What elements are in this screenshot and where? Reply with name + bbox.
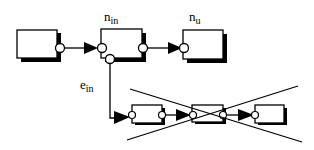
- output-port-icon: [56, 44, 65, 53]
- n-in-label: nin: [104, 9, 118, 26]
- e-in-label: ein: [80, 77, 94, 94]
- input-port-icon: [180, 44, 189, 53]
- input-port-icon: [98, 44, 107, 53]
- input-port-icon: [190, 112, 197, 119]
- input-port-icon: [129, 112, 136, 119]
- arrowhead-icon: [84, 42, 98, 54]
- arrowhead-icon: [114, 111, 130, 124]
- output-port-icon: [139, 44, 148, 53]
- output-port-icon: [159, 112, 166, 119]
- node-sub-a: [129, 105, 166, 125]
- n-u-label: nu: [189, 9, 201, 26]
- node-sub-c: [252, 105, 288, 125]
- input-port-icon: [252, 112, 259, 119]
- edge-sub-a-to-sub-b: [166, 109, 192, 121]
- edge-source-to-n-in: [65, 42, 99, 54]
- output-port-icon: [106, 55, 115, 64]
- arrowhead-icon: [176, 109, 191, 121]
- diagram-canvas: nin nu ein: [0, 0, 314, 150]
- edge-n-in-to-n-u: [148, 42, 183, 54]
- node-n-in: [98, 29, 148, 64]
- node-source: [17, 30, 65, 62]
- node-n-u: [180, 30, 228, 63]
- edge-sub-b-to-sub-c: [227, 109, 255, 121]
- edge-e-in: [110, 64, 130, 125]
